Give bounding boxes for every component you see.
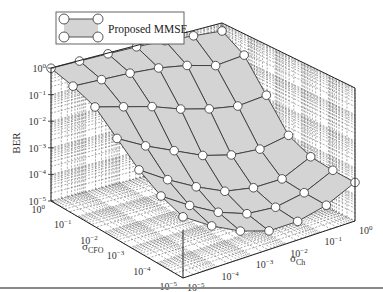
data-point-marker xyxy=(322,201,331,210)
data-point-marker xyxy=(163,175,172,184)
data-point-marker xyxy=(189,32,198,41)
data-point-marker xyxy=(284,131,293,140)
z-tick-label: 10−4 xyxy=(29,168,47,180)
legend-swatch-fill xyxy=(64,19,98,37)
data-point-marker xyxy=(97,75,106,84)
data-point-marker xyxy=(249,183,258,192)
x-tick-label: 10−3 xyxy=(107,249,125,261)
data-point-marker xyxy=(218,27,227,36)
data-point-marker xyxy=(154,64,163,73)
data-point-marker xyxy=(192,182,201,191)
data-point-marker xyxy=(329,166,338,175)
bottom-rule xyxy=(0,287,383,289)
data-point-marker xyxy=(278,175,287,184)
z-axis-title: BER xyxy=(10,132,22,154)
data-point-marker xyxy=(240,51,249,60)
legend-marker-icon xyxy=(59,32,69,42)
legend-marker-icon xyxy=(59,14,69,24)
legend-label: Proposed MMSE xyxy=(108,23,188,36)
z-tick-label: 10−3 xyxy=(29,142,47,154)
data-point-marker xyxy=(119,102,128,111)
svg-text:σCFO: σCFO xyxy=(82,240,104,255)
x-tick-label: 10−1 xyxy=(54,218,72,230)
y-tick-label: 10−3 xyxy=(256,258,274,270)
x-tick-label: 10−5 xyxy=(160,280,178,292)
data-point-marker xyxy=(236,227,245,236)
y-tick-label: 10−4 xyxy=(221,270,239,282)
data-point-marker xyxy=(214,208,223,217)
data-point-marker xyxy=(176,105,185,114)
legend: Proposed MMSE xyxy=(56,12,188,44)
data-point-marker xyxy=(135,166,144,175)
data-point-marker xyxy=(69,82,78,91)
data-point-marker xyxy=(185,201,194,210)
data-point-marker xyxy=(306,152,315,161)
surface-mesh xyxy=(47,27,360,236)
data-point-marker xyxy=(233,102,242,111)
z-tick-label: 10−1 xyxy=(29,89,47,101)
data-point-marker xyxy=(91,103,100,112)
data-point-marker xyxy=(300,188,309,197)
data-point-marker xyxy=(205,105,214,114)
data-point-marker xyxy=(211,61,220,70)
data-point-marker xyxy=(243,209,252,218)
z-tick-label: 10−2 xyxy=(29,115,47,127)
data-point-marker xyxy=(207,222,216,231)
y-tick-label: 100 xyxy=(359,224,373,236)
data-point-marker xyxy=(271,203,280,212)
data-point-marker xyxy=(198,151,207,160)
data-point-marker xyxy=(113,134,122,143)
z-tick-label: 100 xyxy=(33,62,47,74)
y-tick-label: 10−1 xyxy=(325,235,343,247)
legend-marker-icon xyxy=(93,32,103,42)
data-point-marker xyxy=(141,142,150,151)
data-point-marker xyxy=(256,145,265,154)
data-point-marker xyxy=(148,102,157,111)
data-point-marker xyxy=(262,91,271,100)
x-tick-label: 100 xyxy=(32,203,46,215)
data-point-marker xyxy=(170,146,179,155)
data-point-marker xyxy=(221,187,230,196)
surface-plot: 10010−110−210−310−410−510010−110−210−310… xyxy=(0,0,383,292)
data-point-marker xyxy=(265,227,274,236)
x-tick-label: 10−4 xyxy=(133,265,151,277)
data-point-marker xyxy=(179,213,188,222)
data-point-marker xyxy=(227,151,236,160)
data-point-marker xyxy=(157,192,166,201)
data-point-marker xyxy=(126,69,135,78)
data-point-marker xyxy=(293,217,302,226)
legend-marker-icon xyxy=(93,14,103,24)
x-axis-title: σCFO xyxy=(82,240,104,255)
data-point-marker xyxy=(183,61,192,70)
